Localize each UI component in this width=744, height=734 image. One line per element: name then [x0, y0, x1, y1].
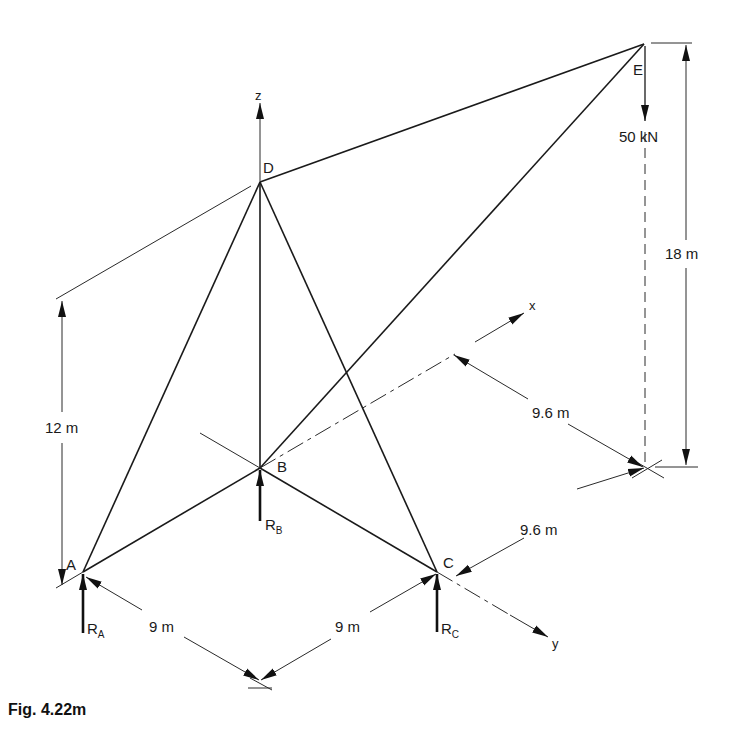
E-base-cross-1 — [633, 460, 664, 478]
joint-label-A: A — [66, 556, 76, 573]
member-CD — [260, 182, 437, 572]
axis-label-x: x — [529, 298, 536, 313]
reaction-label-RB: RB — [265, 516, 283, 536]
dim-label-12m: 12 m — [45, 419, 78, 436]
truss-members — [83, 44, 644, 572]
dim-9m-left-lower — [184, 637, 259, 680]
dim-9m-right-lower — [261, 639, 331, 680]
A-base-tick — [56, 572, 83, 588]
reaction-label-RA: RA — [87, 620, 105, 640]
D-height-extension — [56, 186, 251, 299]
axis-label-y: y — [552, 636, 559, 651]
joint-label-D: D — [263, 159, 274, 176]
axis-label-z: z — [255, 88, 262, 103]
x-axis-centerline — [260, 354, 455, 468]
dim-label-9m-left: 9 m — [149, 618, 174, 635]
load-label: 50 kN — [619, 128, 658, 145]
dim-9.6m-x-lower — [568, 424, 643, 467]
dim-label-9.6m-x: 9.6 m — [532, 404, 570, 421]
x-axis-arrow — [475, 313, 524, 342]
dim-label-18m: 18 m — [665, 245, 698, 262]
member-BC — [260, 468, 437, 572]
dim-label-9m-right: 9 m — [335, 618, 360, 635]
member-AD — [83, 182, 260, 572]
dim-9.6m-x-upper — [454, 355, 528, 399]
reaction-label-RC: RC — [441, 620, 459, 640]
y-axis-arrow — [510, 615, 548, 637]
joint-label-B: B — [277, 458, 287, 475]
joint-label-C: C — [443, 554, 454, 571]
figure-caption: Fig. 4.22m — [8, 701, 86, 719]
joint-label-E: E — [633, 61, 643, 78]
member-AB — [83, 468, 260, 572]
member-DE — [260, 44, 644, 182]
dim-9m-right-upper — [370, 574, 436, 612]
truss-diagram: A B C D E z x y RA RB RC 50 kN 12 m 18 m… — [0, 0, 744, 734]
dim-9m-left-upper — [86, 577, 142, 610]
support-reactions — [83, 470, 437, 633]
dim-label-9.6m-y: 9.6 m — [520, 521, 558, 538]
dim-9.6m-y-upper — [577, 468, 644, 489]
y-axis-centerline — [437, 572, 510, 615]
member-BE — [260, 44, 644, 468]
x-axis-back-extension — [200, 433, 260, 468]
dim-9.6m-y-lower — [456, 538, 524, 576]
coordinate-axes — [200, 103, 548, 637]
